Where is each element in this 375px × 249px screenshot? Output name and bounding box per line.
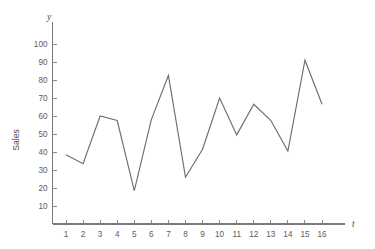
x-tick-label: 9 [200, 230, 205, 239]
y-tick-label: 100 [34, 40, 48, 49]
y-axis-tick-group [53, 44, 58, 206]
y-axis-title: Sales [11, 129, 21, 151]
y-tick-label: 70 [38, 94, 48, 103]
x-axis-symbol-label: t [352, 219, 355, 229]
chart-canvas: 102030405060708090100 123456789101112131… [0, 0, 375, 249]
y-tick-label: 50 [38, 130, 48, 139]
x-tick-label: 1 [64, 230, 69, 239]
x-axis-tick-labels: 12345678910111213141516 [64, 230, 327, 239]
x-tick-label: 6 [149, 230, 154, 239]
y-tick-label: 90 [38, 58, 48, 67]
y-axis-symbol-label: y [46, 12, 52, 22]
x-tick-label: 12 [249, 230, 259, 239]
y-tick-label: 40 [38, 148, 48, 157]
x-tick-label: 14 [283, 230, 293, 239]
x-tick-label: 8 [183, 230, 188, 239]
y-tick-label: 80 [38, 76, 48, 85]
y-tick-label: 60 [38, 112, 48, 121]
x-tick-label: 5 [132, 230, 137, 239]
data-series-line [66, 60, 322, 191]
x-tick-label: 4 [115, 230, 120, 239]
x-axis-tick-group [66, 220, 322, 225]
y-tick-label: 10 [38, 202, 48, 211]
x-tick-label: 7 [166, 230, 171, 239]
x-tick-label: 3 [98, 230, 103, 239]
y-tick-label: 30 [38, 166, 48, 175]
line-chart: 102030405060708090100 123456789101112131… [0, 0, 375, 249]
y-axis-tick-labels: 102030405060708090100 [34, 40, 48, 211]
x-tick-label: 16 [317, 230, 327, 239]
x-tick-label: 13 [266, 230, 276, 239]
x-tick-label: 11 [232, 230, 241, 239]
x-tick-label: 15 [300, 230, 310, 239]
x-tick-label: 10 [215, 230, 225, 239]
y-tick-label: 20 [38, 184, 48, 193]
x-tick-label: 2 [81, 230, 86, 239]
